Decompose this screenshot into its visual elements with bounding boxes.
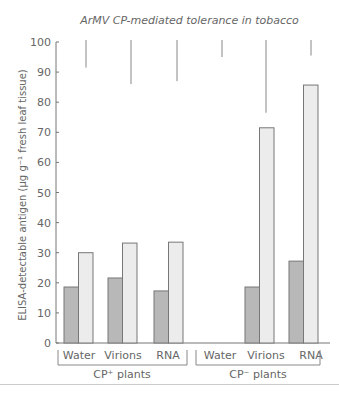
category-label: Water — [204, 349, 237, 362]
bar-light — [79, 253, 94, 343]
bar-light — [123, 243, 138, 343]
category-label: Virions — [247, 349, 285, 362]
y-tick-label: 50 — [37, 187, 51, 200]
bar-light — [260, 128, 275, 343]
y-tick-label: 20 — [37, 277, 51, 290]
y-tick-label: 80 — [37, 96, 51, 109]
y-tick-label: 10 — [37, 307, 51, 320]
y-tick-label: 70 — [37, 126, 51, 139]
y-axis-label: ELISA-detectable antigen (µg g⁻¹ fresh l… — [17, 69, 28, 321]
y-tick-label: 100 — [30, 36, 51, 49]
group-label: CP⁺ plants — [93, 368, 151, 381]
bar-dark — [289, 261, 304, 343]
bar-light — [304, 85, 319, 343]
group-label: CP⁻ plants — [229, 368, 287, 381]
y-tick-label: 90 — [37, 66, 51, 79]
bar-dark — [245, 287, 260, 343]
bar-light — [169, 242, 184, 343]
y-tick-label: 0 — [44, 337, 51, 350]
bar-dark — [154, 291, 169, 343]
y-tick-label: 60 — [37, 156, 51, 169]
bar-dark — [64, 287, 79, 343]
bar-dark — [108, 278, 123, 343]
category-label: Virions — [104, 349, 142, 362]
divider — [0, 384, 339, 385]
y-tick-label: 40 — [37, 217, 51, 230]
category-label: RNA — [156, 349, 180, 362]
y-tick-label: 30 — [37, 247, 51, 260]
bar-chart: 0102030405060708090100ELISA-detectable a… — [0, 0, 339, 397]
category-label: Water — [63, 349, 96, 362]
